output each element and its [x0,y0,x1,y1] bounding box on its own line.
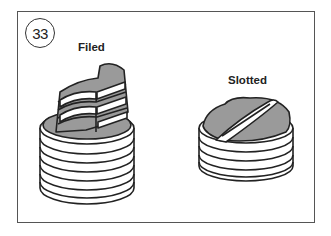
slotted-plug-illustration [199,98,293,181]
filed-plug-illustration [40,64,134,204]
illustrations [0,0,331,236]
